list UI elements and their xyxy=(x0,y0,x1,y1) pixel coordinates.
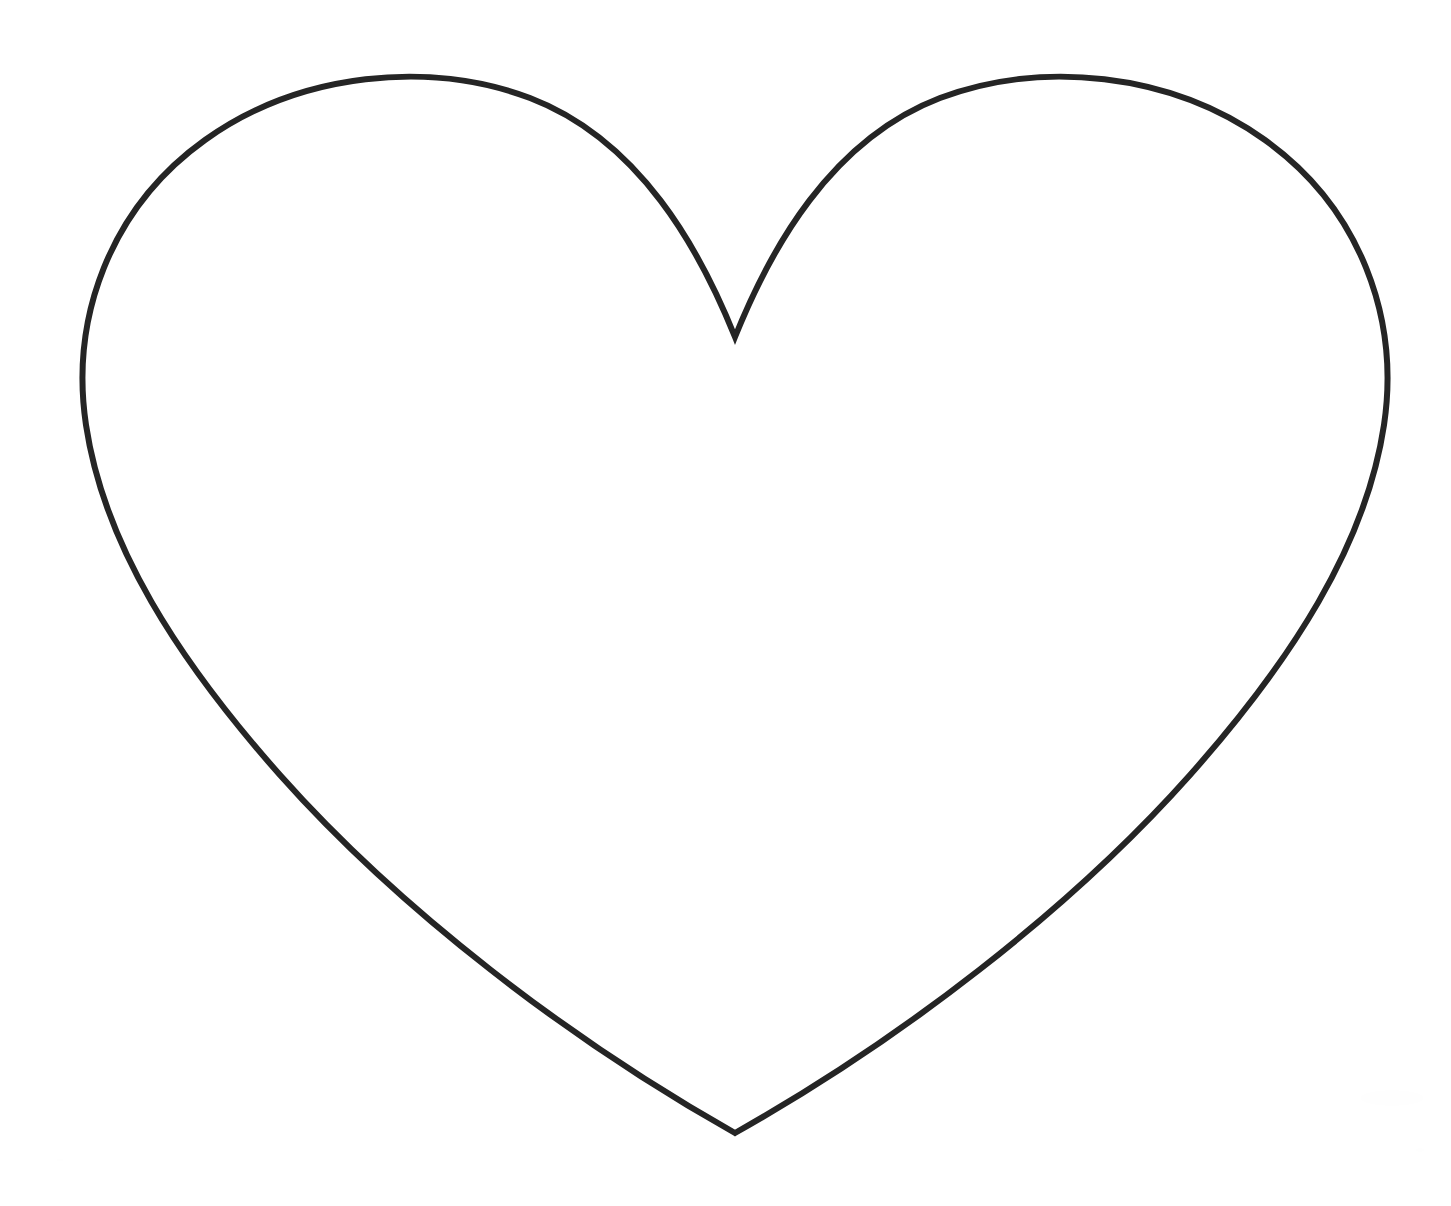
heart-outline-figure: A large symmetric heart shape drawn as a… xyxy=(0,0,1451,1206)
drawing-canvas: A large symmetric heart shape drawn as a… xyxy=(0,0,1451,1206)
heart-icon xyxy=(83,77,1388,1133)
